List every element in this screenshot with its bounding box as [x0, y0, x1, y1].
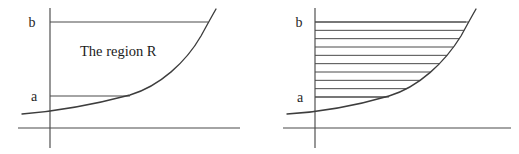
- region-caption-label: The region R: [80, 43, 157, 59]
- right-panel-strips-diagram: b a: [283, 8, 511, 148]
- left-panel-region-diagram: b a The region R: [18, 8, 240, 148]
- horizontal-strip-hatching: [315, 22, 469, 97]
- boundary-curve: [22, 9, 216, 114]
- figure-diagram: b a The region R b a: [0, 0, 519, 154]
- axis-label-a-right: a: [297, 90, 304, 105]
- figure-container: b a The region R b a: [0, 0, 519, 154]
- axis-label-b: b: [29, 15, 36, 30]
- axis-label-a: a: [31, 89, 38, 104]
- axis-label-b-right: b: [296, 15, 303, 30]
